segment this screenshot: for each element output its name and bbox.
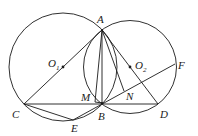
label-m: M <box>80 91 91 103</box>
label-e: E <box>70 122 78 134</box>
segment-ce <box>24 104 73 120</box>
segment-an <box>102 30 124 91</box>
label-n: N <box>125 90 134 102</box>
label-o2: O2 <box>135 59 147 74</box>
point-o2 <box>129 66 132 69</box>
label-c: C <box>12 108 20 120</box>
segment-am <box>95 30 102 102</box>
label-b: B <box>98 110 105 122</box>
label-f: F <box>177 59 185 71</box>
geometry-figure: A B C D E F M N O1 O2 <box>0 0 198 136</box>
label-o1: O1 <box>48 57 59 72</box>
label-a: A <box>96 13 104 25</box>
point-o1 <box>62 66 65 69</box>
point-a <box>101 29 103 31</box>
label-d: D <box>159 108 168 120</box>
point-b <box>101 102 103 104</box>
